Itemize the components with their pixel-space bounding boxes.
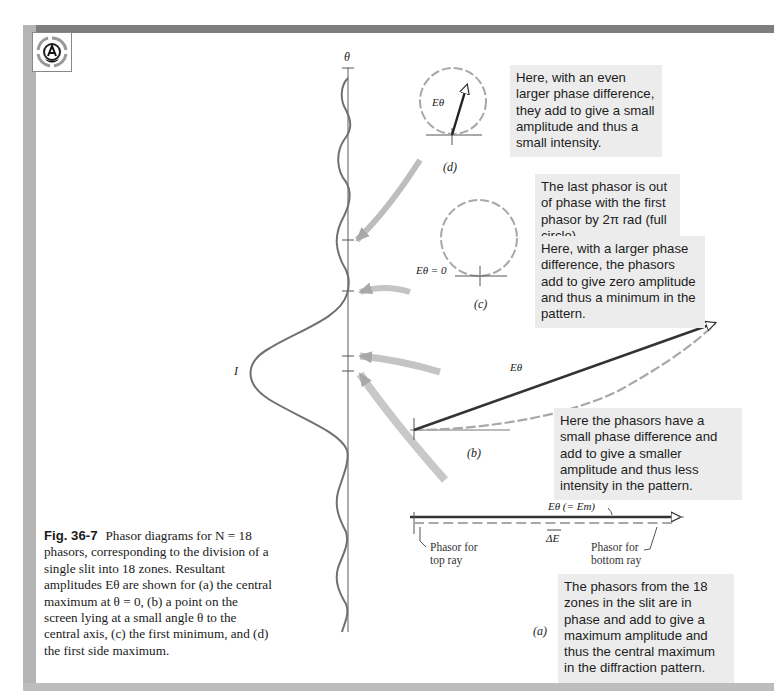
bottom-phasor-label: Phasor for bottom ray xyxy=(591,541,651,567)
panel-c-note: Here, with a larger phase difference, th… xyxy=(535,236,705,328)
panel-d-label: (d) xyxy=(443,160,457,175)
phasor-diagram-c xyxy=(441,200,517,286)
figure-caption: Fig. 36-7Phasor diagrams for N = 18 phas… xyxy=(44,528,274,659)
panel-d-note: Here, with an even larger phase differen… xyxy=(510,65,662,157)
pointer-arrow-c xyxy=(360,288,410,292)
panel-c-vector-label: Eθ = 0 xyxy=(416,264,447,276)
figure-number: Fig. 36-7 xyxy=(44,528,98,543)
panel-b-label: (b) xyxy=(467,446,481,461)
pointer-arrow-a xyxy=(360,374,445,480)
panel-a-vector-label: Eθ (= Em) xyxy=(548,500,595,512)
panel-a-label: (a) xyxy=(533,624,547,639)
panel-c-label: (c) xyxy=(474,297,487,312)
pointer-arrow-b xyxy=(360,356,440,372)
pointer-arrow-d xyxy=(357,160,420,240)
panel-a-delta-label: ΔE xyxy=(546,532,559,544)
caption-text: Phasor diagrams for N = 18 phasors, corr… xyxy=(44,528,272,658)
panel-d-vector-label: Eθ xyxy=(432,96,444,108)
panel-b-vector-label: Eθ xyxy=(510,361,522,373)
theta-axis xyxy=(342,68,354,632)
intensity-label: I xyxy=(234,364,238,379)
panel-a-note: The phasors from the 18 zones in the sli… xyxy=(558,574,734,683)
top-phasor-label: Phasor for top ray xyxy=(430,541,490,567)
panel-b-note: Here the phasors have a small phase diff… xyxy=(554,408,742,500)
theta-axis-label: θ xyxy=(344,50,350,65)
phasor-diagram-d xyxy=(420,68,486,145)
